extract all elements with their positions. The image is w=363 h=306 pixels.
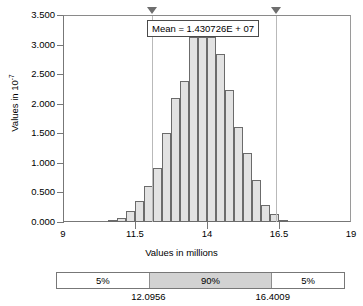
x-tick-label: 14 [187, 228, 227, 239]
histogram-bar [207, 37, 216, 222]
lower-5pct-marker-handle-icon[interactable] [147, 7, 157, 14]
histogram-bar [261, 205, 270, 222]
upper-95pct-marker-line[interactable] [276, 16, 277, 222]
histogram-bar [117, 218, 126, 222]
y-tick-label: 2.500 [7, 69, 55, 79]
histogram-bar [126, 211, 135, 222]
y-tick-label: 1.000 [7, 158, 55, 168]
histogram-bar [162, 133, 171, 222]
y-tick-label: 0.000 [7, 217, 55, 227]
x-tick-label: 11.5 [115, 228, 155, 239]
histogram-bar [180, 81, 189, 222]
y-tick-label: 0.500 [7, 187, 55, 197]
upper-bound-value: 16.4009 [233, 291, 313, 302]
mean-label: Mean = 1.430726E + 07 [147, 20, 259, 37]
histogram-bar [243, 153, 252, 222]
histogram-bar [171, 98, 180, 222]
upper-tail[interactable]: 5% [272, 273, 344, 288]
histogram-bar [153, 168, 162, 222]
y-tick-label: 3.500 [7, 10, 55, 20]
forecast-chart-panel: Values in 10-7 0.0000.5001.0001.5002.000… [0, 0, 363, 306]
histogram-bar [279, 220, 288, 222]
lower-5pct-marker-line[interactable] [152, 16, 153, 222]
x-tick-label: 16.5 [259, 228, 299, 239]
certainty-band[interactable]: 5%90%5% [56, 272, 345, 289]
histogram-bar [234, 127, 243, 222]
y-tick-label: 2.000 [7, 99, 55, 109]
histogram-bars [64, 16, 350, 222]
y-tick [57, 222, 64, 223]
certainty-range[interactable]: 90% [149, 273, 272, 288]
x-axis-title: Values in millions [0, 247, 363, 258]
histogram-bar [252, 180, 261, 222]
y-tick-label: 3.000 [7, 40, 55, 50]
y-tick-label: 1.500 [7, 128, 55, 138]
histogram-bar [108, 220, 117, 222]
lower-bound-value: 12.0956 [108, 291, 188, 302]
histogram-bar [135, 201, 144, 222]
lower-tail[interactable]: 5% [57, 273, 149, 288]
x-tick-label: 19 [331, 228, 363, 239]
histogram-bar [225, 90, 234, 222]
x-tick-label: 9 [43, 228, 83, 239]
histogram-bar [198, 37, 207, 222]
upper-95pct-marker-handle-icon[interactable] [271, 7, 281, 14]
histogram-bar [189, 37, 198, 222]
histogram-bar [216, 54, 225, 222]
histogram-bar [270, 214, 279, 222]
